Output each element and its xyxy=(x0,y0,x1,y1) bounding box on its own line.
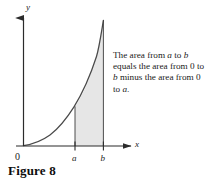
annotation-text-block: The area from a to b equals the area fro… xyxy=(113,50,205,95)
x-tick-label-b: b xyxy=(101,154,106,163)
annotation-l4-part2: . xyxy=(127,84,129,94)
annotation-l3-part1: 0 to xyxy=(190,61,204,71)
x-axis-label: x xyxy=(135,140,139,149)
y-axis-label: y xyxy=(26,3,30,12)
annotation-l1-part1: The area from xyxy=(113,50,167,60)
shaded-area-a-to-b xyxy=(75,21,103,147)
annotation-l1-var-b: b xyxy=(184,50,189,60)
annotation-l3-part2: minus the area xyxy=(118,72,174,82)
annotation-l1-part2: to xyxy=(172,50,184,60)
figure-container: y x 0 a b The area from a to b equals th… xyxy=(0,0,206,187)
figure-caption: Figure 8 xyxy=(8,164,56,177)
origin-label: 0 xyxy=(15,152,20,162)
annotation-l2: equals the area from xyxy=(113,61,188,71)
x-tick-label-a: a xyxy=(72,154,77,163)
